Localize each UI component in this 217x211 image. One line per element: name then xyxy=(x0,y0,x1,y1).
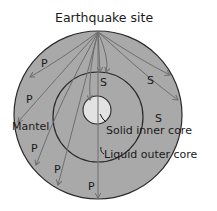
p-wave-label: P xyxy=(54,163,61,176)
inner-core-label: Solid inner core xyxy=(106,124,192,137)
earth-seismic-wave-diagram: Earthquake site P P P P P S S S Mantel S… xyxy=(0,0,217,211)
p-wave-label: P xyxy=(26,93,33,106)
s-wave-label: S xyxy=(100,76,107,89)
outer-core-label: Liquid outer core xyxy=(104,148,198,161)
p-wave-label: P xyxy=(88,180,95,193)
s-wave-label: S xyxy=(147,74,154,87)
mantle-label: Mantel xyxy=(12,120,49,133)
p-wave-label: P xyxy=(41,57,48,70)
p-wave-label: P xyxy=(31,142,38,155)
earthquake-site-title: Earthquake site xyxy=(55,10,153,25)
inner-core xyxy=(83,96,111,124)
